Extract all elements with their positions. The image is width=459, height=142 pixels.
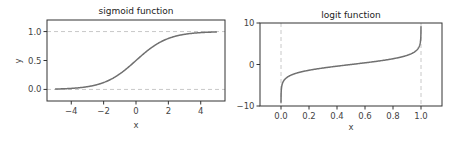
x-tick-label: 2 [166, 106, 171, 116]
x-axis-ticks: −4−2024 [65, 101, 203, 116]
x-tick-label: 0 [133, 106, 138, 116]
sigmoid-curve [55, 32, 217, 89]
y-tick-label: 0.5 [28, 56, 42, 66]
y-axis-ticks: 0.00.51.0 [28, 27, 47, 95]
figure: sigmoid function −4−2024 0.00.51.0 x y l… [0, 0, 459, 142]
y-axis-ticks: −10010 [237, 18, 260, 111]
x-tick-label: 1.0 [414, 111, 428, 121]
y-tick-label: 1.0 [28, 27, 42, 37]
chart-title: sigmoid function [98, 6, 173, 16]
x-tick-label: 0.4 [330, 111, 344, 121]
y-tick-label: −10 [237, 101, 255, 111]
y-tick-label: 0.0 [28, 84, 42, 94]
curve-line [281, 26, 421, 102]
x-axis-label: x [133, 120, 138, 130]
chart-title: logit function [321, 10, 380, 20]
y-axis-label: y [13, 58, 23, 63]
x-tick-label: 0.0 [274, 111, 288, 121]
sigmoid-chart: sigmoid function −4−2024 0.00.51.0 x y [13, 6, 225, 130]
curve-line [55, 32, 217, 89]
y-tick-label: 10 [244, 18, 255, 28]
x-tick-label: 0.8 [386, 111, 400, 121]
x-tick-label: 4 [198, 106, 203, 116]
x-axis-ticks: 0.00.20.40.60.81.0 [274, 106, 428, 121]
x-tick-label: −2 [97, 106, 110, 116]
x-tick-label: −4 [65, 106, 78, 116]
logit-curve [281, 26, 421, 102]
x-tick-label: 0.6 [358, 111, 372, 121]
logit-chart: logit function 0.00.20.40.60.81.0 −10010… [237, 10, 442, 132]
x-axis-label: x [348, 122, 353, 132]
y-tick-label: 0 [249, 60, 254, 70]
x-tick-label: 0.2 [302, 111, 316, 121]
